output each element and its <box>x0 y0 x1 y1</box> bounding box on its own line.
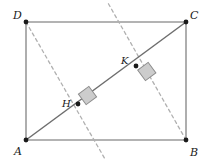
right-angle-marker-K <box>138 62 156 80</box>
geometry-figure: A B C D H K <box>0 0 206 165</box>
vertex-dot-A <box>24 138 29 143</box>
vertex-label-B: B <box>189 146 198 159</box>
diagonal-AC <box>26 22 186 140</box>
vertex-label-D: D <box>12 9 22 22</box>
vertex-label-C: C <box>190 9 199 22</box>
point-dot-H <box>76 102 81 107</box>
vertex-dot-B <box>184 138 189 143</box>
vertex-labels: A B C D <box>12 9 199 159</box>
point-label-H: H <box>61 98 71 109</box>
vertex-label-A: A <box>13 145 22 158</box>
geometry-canvas: A B C D H K <box>0 0 206 165</box>
point-label-K: K <box>120 55 129 66</box>
right-angle-markers <box>78 62 155 104</box>
vertex-dot-C <box>184 20 189 25</box>
vertex-dot-D <box>24 20 29 25</box>
diagonal-line-AC <box>26 22 186 140</box>
point-dot-K <box>134 64 139 69</box>
